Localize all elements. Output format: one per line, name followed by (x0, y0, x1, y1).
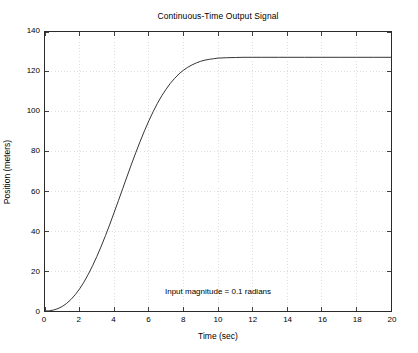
x-axis-tick-labels: 02468101214161820 (44, 316, 392, 328)
y-tick-label: 20 (6, 268, 40, 276)
y-tick-label: 60 (6, 188, 40, 196)
data-series-line (45, 32, 391, 311)
y-tick-label: 80 (6, 147, 40, 155)
y-tick-label: 120 (6, 67, 40, 75)
x-tick-label: 14 (276, 316, 300, 324)
x-tick-label: 6 (136, 316, 160, 324)
figure-canvas: Continuous-Time Output Signal Position (… (0, 0, 418, 353)
x-tick-label: 20 (380, 316, 404, 324)
y-tick-label: 100 (6, 107, 40, 115)
x-tick-label: 8 (171, 316, 195, 324)
x-tick-label: 0 (32, 316, 56, 324)
y-tick-label: 140 (6, 27, 40, 35)
x-tick-label: 2 (67, 316, 91, 324)
chart-annotation: Input magnitude = 0.1 radians (44, 287, 392, 296)
x-tick-label: 4 (102, 316, 126, 324)
y-tick-label: 0 (6, 308, 40, 316)
chart-title: Continuous-Time Output Signal (44, 11, 392, 21)
x-tick-label: 18 (345, 316, 369, 324)
y-axis-tick-labels: 020406080100120140 (4, 31, 40, 312)
x-tick-label: 16 (310, 316, 334, 324)
x-axis-label: Time (sec) (44, 331, 392, 341)
plot-area (44, 31, 392, 312)
y-tick-label: 40 (6, 228, 40, 236)
x-tick-label: 12 (241, 316, 265, 324)
x-tick-label: 10 (206, 316, 230, 324)
